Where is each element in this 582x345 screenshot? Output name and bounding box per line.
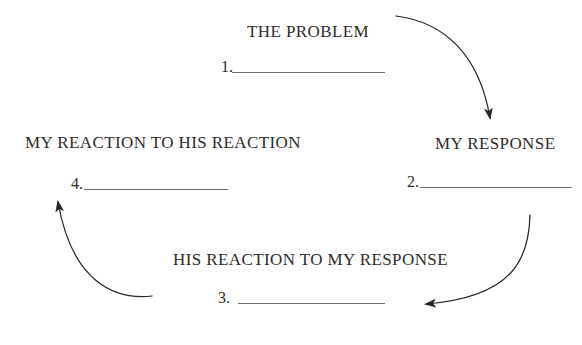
- arrow-his-reaction-to-my-reaction: [58, 202, 152, 297]
- arrows-layer: [0, 0, 582, 345]
- arrow-problem-to-my-response: [396, 16, 490, 118]
- arrow-my-response-to-his-reaction: [426, 215, 530, 304]
- cycle-diagram: THE PROBLEM 1. MY RESPONSE 2. HIS REACTI…: [0, 0, 582, 345]
